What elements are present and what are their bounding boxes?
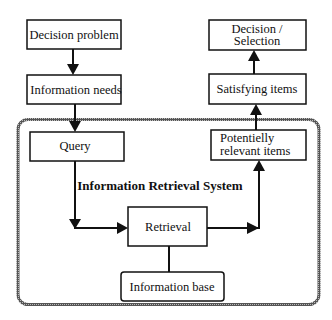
- node-label: Satisfying items: [217, 82, 298, 96]
- node-label: Information needs: [30, 83, 121, 97]
- node-information-needs: Information needs: [27, 75, 122, 104]
- node-label-line-2: Selection: [234, 34, 281, 48]
- edge-query-to-retrieval: [75, 161, 119, 228]
- node-label: Decision problem: [29, 28, 118, 42]
- node-label-line-2: relevant items: [220, 144, 291, 158]
- node-information-base: Information base: [121, 272, 224, 301]
- arrowhead-up-icon: [253, 160, 265, 171]
- node-retrieval: Retrieval: [128, 207, 207, 246]
- system-label: Information Retrieval System: [77, 178, 243, 193]
- node-decision-selection: Decision / Selection: [209, 20, 306, 50]
- arrowhead-up-icon: [248, 50, 260, 61]
- node-label: Retrieval: [145, 220, 191, 234]
- arrowhead-down-icon: [69, 121, 81, 132]
- node-decision-problem: Decision problem: [27, 20, 121, 49]
- node-potentially-relevant-items: Potentielly relevant items: [211, 130, 306, 160]
- arrowhead-right-icon: [247, 222, 259, 234]
- node-label: Information base: [129, 280, 214, 294]
- node-label: Query: [59, 139, 91, 153]
- node-label-line-1: Potentielly: [220, 131, 275, 145]
- ir-system-diagram: Information Retrieval System Decision pr…: [0, 0, 332, 320]
- arrowhead-right-icon: [117, 222, 128, 234]
- node-query: Query: [30, 132, 124, 161]
- node-satisfying-items: Satisfying items: [209, 74, 306, 104]
- arrowhead-up-icon: [250, 104, 262, 115]
- arrowhead-down-icon: [67, 64, 79, 75]
